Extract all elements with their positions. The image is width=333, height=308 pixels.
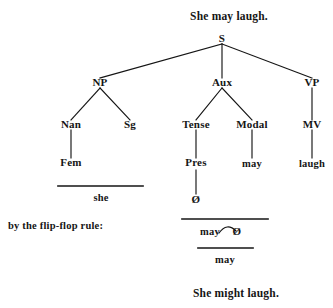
node-modal: Modal [236,119,268,130]
edge-aux-tense [196,88,222,120]
derived-word-she: she [93,192,108,203]
node-vp: VP [304,77,319,88]
terminal-may: may [242,158,262,169]
node-aux: Aux [212,77,232,88]
node-s: S [219,33,225,44]
terminal-null-second: Ø [233,226,242,237]
node-np: NP [92,77,107,88]
edge-np-nan [71,88,100,120]
node-fem: Fem [60,157,81,168]
edge-np-sg [100,88,130,120]
syntax-tree-figure: She may laugh. S NP Aux VP Nan Sg Tense … [0,0,333,308]
node-nan: Nan [61,119,81,130]
derived-word-may-flipped: may [200,226,220,237]
node-tense: Tense [182,119,210,130]
terminal-null-first: Ø [192,194,201,205]
node-pres: Pres [185,157,206,168]
edge-s-np [100,44,222,78]
tree-branch-lines [0,0,333,308]
node-mv: MV [303,119,322,130]
source-sentence: She may laugh. [190,11,268,22]
node-sg: Sg [124,119,136,130]
result-sentence: She might laugh. [193,288,279,299]
edge-aux-modal [222,88,252,120]
flip-flop-rule-note: by the flip-flop rule: [8,220,103,231]
derived-word-may-final: may [215,254,235,265]
terminal-laugh: laugh [299,158,325,169]
edge-s-vp [222,44,312,78]
